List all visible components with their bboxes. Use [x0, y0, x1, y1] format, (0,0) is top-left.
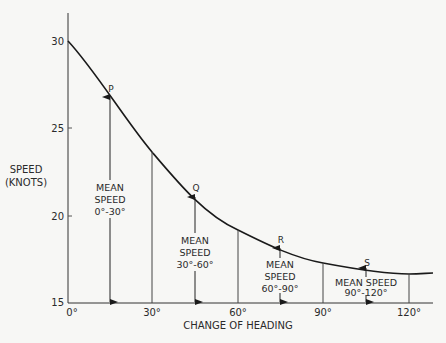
y-axis-label-line1: SPEED	[10, 164, 43, 175]
mean-speed-p-line2: SPEED	[94, 194, 125, 205]
x-tick-0: 0°	[66, 307, 77, 318]
y-tick-30: 30	[51, 36, 64, 47]
point-s-label: S	[364, 258, 370, 268]
y-tick-15: 15	[51, 297, 64, 308]
mean-speed-p-line1: MEAN	[96, 182, 124, 193]
x-tick-60: 60°	[229, 307, 247, 318]
y-tick-20: 20	[51, 211, 64, 222]
speed-curve	[68, 41, 433, 274]
point-q-label: Q	[192, 183, 199, 193]
mean-speed-s-line2: 90°-120°	[344, 287, 387, 298]
y-axis-label-line2: (KNOTS)	[5, 177, 47, 188]
mean-speed-q-line1: MEAN	[181, 235, 209, 246]
mean-speed-p-line3: 0°-30°	[94, 206, 125, 217]
y-tick-25: 25	[51, 123, 64, 134]
x-axis-label: CHANGE OF HEADING	[183, 320, 292, 331]
speed-heading-chart: 30 25 20 15 0° 30° 60° 90° 120° SPEED (K…	[0, 0, 446, 343]
point-p-label: P	[108, 84, 114, 94]
x-tick-30: 30°	[143, 307, 161, 318]
mean-speed-r-line1: MEAN	[266, 259, 294, 270]
mean-speed-r-line2: SPEED	[264, 271, 295, 282]
mean-speed-r-line3: 60°-90°	[261, 283, 298, 294]
x-tick-120: 120°	[397, 307, 421, 318]
point-r-label: R	[278, 235, 284, 245]
mean-speed-q-line3: 30°-60°	[176, 259, 213, 270]
mean-speed-q-line2: SPEED	[179, 247, 210, 258]
x-tick-90: 90°	[314, 307, 332, 318]
